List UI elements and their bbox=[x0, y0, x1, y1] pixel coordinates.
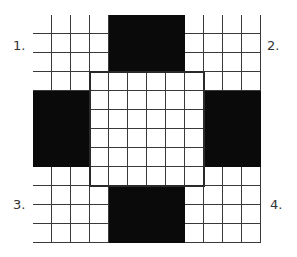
grid-cell bbox=[71, 186, 90, 205]
grid-cell bbox=[204, 15, 223, 34]
grid-cell bbox=[242, 15, 261, 34]
grid-cell bbox=[185, 186, 204, 205]
grid-cell bbox=[90, 72, 109, 91]
grid-cell bbox=[52, 205, 71, 224]
grid-cell bbox=[242, 186, 261, 205]
grid-cell bbox=[128, 72, 147, 91]
grid-cell bbox=[242, 34, 261, 53]
grid-cell bbox=[71, 53, 90, 72]
grid-cell bbox=[185, 167, 204, 186]
grid-cell bbox=[147, 129, 166, 148]
grid-cell bbox=[166, 148, 185, 167]
grid-cell bbox=[204, 186, 223, 205]
grid-cell bbox=[185, 53, 204, 72]
grid-cell bbox=[223, 34, 242, 53]
grid-cell bbox=[223, 167, 242, 186]
grid-cell bbox=[204, 167, 223, 186]
grid-cell bbox=[185, 72, 204, 91]
grid-cell bbox=[204, 34, 223, 53]
label-1: 1. bbox=[13, 38, 25, 53]
grid-cell bbox=[33, 186, 52, 205]
grid-cell bbox=[223, 15, 242, 34]
grid-cell bbox=[33, 167, 52, 186]
grid-cell bbox=[52, 186, 71, 205]
grid-cell bbox=[52, 72, 71, 91]
grid-cell bbox=[90, 110, 109, 129]
grid-cell bbox=[128, 129, 147, 148]
grid-cell bbox=[128, 110, 147, 129]
grid-cell bbox=[52, 224, 71, 243]
grid-cell bbox=[90, 148, 109, 167]
grid-cell bbox=[109, 148, 128, 167]
grid-cell bbox=[242, 224, 261, 243]
grid-cell bbox=[33, 72, 52, 91]
grid-cell bbox=[90, 53, 109, 72]
grid-cell bbox=[185, 15, 204, 34]
label-2: 2. bbox=[267, 38, 279, 53]
grid-cell bbox=[242, 53, 261, 72]
grid-cell bbox=[71, 72, 90, 91]
black-block-top bbox=[109, 15, 185, 72]
grid-cell bbox=[71, 224, 90, 243]
grid-cell bbox=[128, 167, 147, 186]
grid-cell bbox=[71, 34, 90, 53]
grid-cell bbox=[33, 34, 52, 53]
grid-cell bbox=[185, 205, 204, 224]
grid-cell bbox=[109, 110, 128, 129]
grid-cell bbox=[52, 53, 71, 72]
grid-cell bbox=[33, 53, 52, 72]
grid-cell bbox=[33, 15, 52, 34]
black-block-right bbox=[204, 91, 261, 167]
grid-cell bbox=[185, 148, 204, 167]
grid-cell bbox=[204, 205, 223, 224]
grid-cell bbox=[166, 167, 185, 186]
grid-cell bbox=[204, 72, 223, 91]
grid-cell bbox=[33, 205, 52, 224]
cross-grid bbox=[33, 15, 261, 243]
grid-cell bbox=[147, 72, 166, 91]
grid-cell bbox=[223, 205, 242, 224]
grid-cell bbox=[147, 148, 166, 167]
grid-cell bbox=[33, 224, 52, 243]
grid-cell bbox=[90, 15, 109, 34]
black-block-bottom bbox=[109, 186, 185, 243]
grid-cell bbox=[128, 148, 147, 167]
black-block-left bbox=[33, 91, 90, 167]
grid-cell bbox=[223, 72, 242, 91]
grid-cell bbox=[185, 91, 204, 110]
grid-cell bbox=[109, 167, 128, 186]
grid-cell bbox=[185, 129, 204, 148]
grid-cell bbox=[204, 53, 223, 72]
grid-cell bbox=[128, 91, 147, 110]
grid-cell bbox=[90, 91, 109, 110]
grid-cell bbox=[185, 34, 204, 53]
grid-cell bbox=[109, 91, 128, 110]
grid-cell bbox=[185, 110, 204, 129]
grid-cell bbox=[242, 205, 261, 224]
grid-cell bbox=[109, 72, 128, 91]
grid-cell bbox=[52, 167, 71, 186]
grid-cell bbox=[242, 167, 261, 186]
grid-cell bbox=[242, 72, 261, 91]
grid-cell bbox=[90, 205, 109, 224]
label-4: 4. bbox=[270, 197, 282, 212]
grid-cell bbox=[71, 205, 90, 224]
grid-cell bbox=[223, 53, 242, 72]
grid-cell bbox=[166, 72, 185, 91]
grid-cell bbox=[109, 129, 128, 148]
grid-cell bbox=[90, 34, 109, 53]
grid-cell bbox=[90, 129, 109, 148]
grid-cell bbox=[52, 34, 71, 53]
grid-cell bbox=[71, 15, 90, 34]
grid-cell bbox=[204, 224, 223, 243]
grid-cell bbox=[90, 224, 109, 243]
grid-cell bbox=[185, 224, 204, 243]
grid-cell bbox=[166, 129, 185, 148]
grid-cell bbox=[166, 91, 185, 110]
grid-cell bbox=[223, 224, 242, 243]
grid-cell bbox=[166, 110, 185, 129]
label-3: 3. bbox=[13, 197, 25, 212]
grid-cell bbox=[90, 167, 109, 186]
grid-cell bbox=[223, 186, 242, 205]
grid-cell bbox=[147, 91, 166, 110]
